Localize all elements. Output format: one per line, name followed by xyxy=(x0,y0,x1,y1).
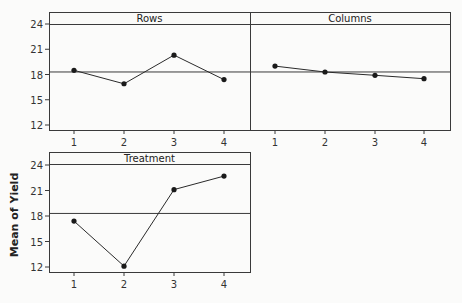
data-point xyxy=(322,69,327,74)
x-tick-label: 4 xyxy=(421,137,427,148)
y-tick-label: 15 xyxy=(30,237,43,248)
data-point xyxy=(121,81,126,86)
panel-columns: Columns1234 xyxy=(250,12,451,148)
y-tick-label: 18 xyxy=(30,70,43,81)
x-tick-label: 3 xyxy=(372,137,378,148)
panel-rows: Rows12151821241234 xyxy=(30,12,250,148)
data-point xyxy=(372,73,377,78)
x-tick-label: 4 xyxy=(221,137,227,148)
y-tick-label: 12 xyxy=(30,262,43,273)
main-effects-chart: Mean of Yield Rows12151821241234Columns1… xyxy=(0,0,462,303)
panel-frame xyxy=(50,153,251,273)
panel-title: Treatment xyxy=(123,153,175,164)
panel-title: Rows xyxy=(136,13,162,24)
data-point xyxy=(71,219,76,224)
y-tick-label: 24 xyxy=(30,160,43,171)
data-point xyxy=(421,76,426,81)
x-tick-label: 3 xyxy=(171,137,177,148)
data-point xyxy=(71,68,76,73)
y-tick-label: 24 xyxy=(30,19,43,30)
data-point xyxy=(272,63,277,68)
x-tick-label: 2 xyxy=(322,137,328,148)
x-tick-label: 3 xyxy=(171,279,177,290)
data-point xyxy=(171,187,176,192)
y-tick-label: 21 xyxy=(30,44,43,55)
x-tick-label: 2 xyxy=(121,279,127,290)
series-line xyxy=(74,55,224,84)
y-axis-label: Mean of Yield xyxy=(8,173,21,258)
panel-title: Columns xyxy=(328,13,372,24)
y-tick-label: 18 xyxy=(30,211,43,222)
x-tick-label: 1 xyxy=(272,137,278,148)
data-point xyxy=(221,173,226,178)
y-tick-label: 21 xyxy=(30,186,43,197)
y-tick-label: 12 xyxy=(30,120,43,131)
y-tick-label: 15 xyxy=(30,95,43,106)
data-point xyxy=(171,53,176,58)
x-tick-label: 2 xyxy=(121,137,127,148)
data-point xyxy=(121,264,126,269)
x-tick-label: 1 xyxy=(71,279,77,290)
x-tick-label: 1 xyxy=(71,137,77,148)
panel-treatment: Treatment12151821241234 xyxy=(30,152,250,290)
series-line xyxy=(74,176,224,266)
x-tick-label: 4 xyxy=(221,279,227,290)
data-point xyxy=(221,77,226,82)
